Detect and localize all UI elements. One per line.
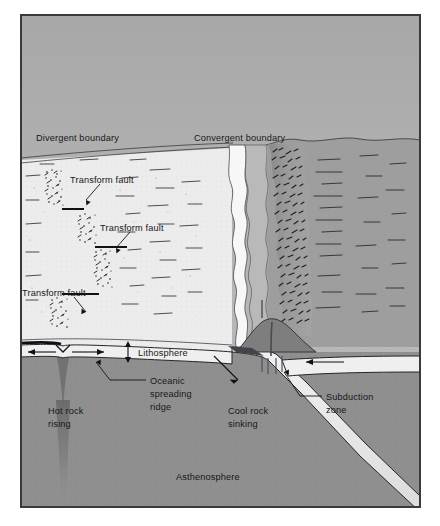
label-lithosphere: Lithosphere bbox=[138, 348, 188, 358]
plate-tectonics-figure: Divergent boundary Convergent boundary T… bbox=[0, 0, 440, 526]
label-divergent-boundary: Divergent boundary bbox=[36, 133, 119, 143]
label-subduction-zone-2: zone bbox=[326, 405, 347, 415]
label-transform-fault-1: Transform fault bbox=[70, 175, 134, 185]
label-oceanic-spreading-ridge-2: spreading bbox=[150, 389, 192, 399]
scene bbox=[21, 15, 420, 512]
label-hot-rock-rising-1: Hot rock bbox=[48, 406, 84, 416]
label-oceanic-spreading-ridge-1: Oceanic bbox=[150, 376, 185, 386]
label-oceanic-spreading-ridge-3: ridge bbox=[150, 402, 171, 412]
label-hot-rock-rising-2: rising bbox=[48, 419, 71, 429]
label-subduction-zone-1: Subduction bbox=[326, 392, 373, 402]
label-convergent-boundary: Convergent boundary bbox=[194, 133, 285, 143]
label-cool-rock-sinking-1: Cool rock bbox=[228, 406, 268, 416]
label-cool-rock-sinking-2: sinking bbox=[228, 419, 258, 429]
asthenosphere-texture bbox=[21, 352, 420, 507]
label-transform-fault-3: Transform fault bbox=[22, 288, 86, 298]
diagram-canvas: Divergent boundary Convergent boundary T… bbox=[0, 0, 440, 526]
label-asthenosphere: Asthenosphere bbox=[176, 472, 240, 482]
label-transform-fault-2: Transform fault bbox=[100, 223, 164, 233]
